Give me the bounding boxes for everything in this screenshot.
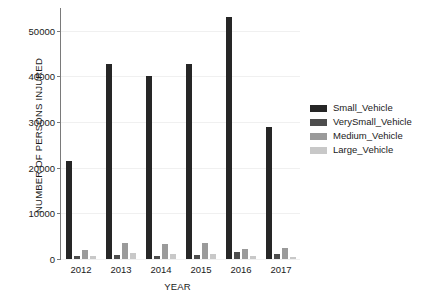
x-tick-label: 2016 — [230, 264, 251, 275]
gridline — [61, 213, 300, 214]
legend-label: Medium_Vehicle — [333, 131, 403, 141]
bar — [282, 248, 289, 259]
gridline — [61, 31, 300, 32]
bar — [146, 76, 153, 259]
bar — [82, 250, 89, 259]
bar — [154, 256, 161, 259]
y-tick-label: 50000 — [3, 25, 55, 36]
y-tick-mark — [57, 213, 60, 214]
bar — [242, 249, 249, 259]
bar-group — [106, 8, 137, 259]
y-tick-mark — [57, 122, 60, 123]
legend-label: Large_Vehicle — [333, 145, 393, 155]
bar-group — [226, 8, 257, 259]
y-tick-mark — [57, 31, 60, 32]
legend-label: VerySmall_Vehicle — [333, 117, 412, 127]
bar — [202, 243, 209, 259]
bar — [250, 256, 257, 259]
y-axis-line — [60, 8, 61, 259]
bar — [234, 252, 241, 259]
bar-group — [66, 8, 97, 259]
legend-item[interactable]: Large_Vehicle — [310, 143, 434, 157]
bar-group — [266, 8, 297, 259]
bar — [170, 254, 177, 259]
plot-area — [60, 8, 300, 259]
y-tick-mark — [57, 168, 60, 169]
x-tick-label: 2015 — [190, 264, 211, 275]
bar — [186, 64, 193, 259]
y-tick-label: 20000 — [3, 162, 55, 173]
legend-swatch-icon — [310, 105, 327, 112]
bar — [130, 253, 137, 259]
y-tick-mark — [57, 76, 60, 77]
bar — [266, 127, 273, 259]
gridline — [61, 168, 300, 169]
legend-item[interactable]: Medium_Vehicle — [310, 129, 434, 143]
y-tick-label: 10000 — [3, 208, 55, 219]
gridline — [61, 76, 300, 77]
bar — [226, 17, 233, 259]
y-tick-label: 30000 — [3, 117, 55, 128]
x-tick-label: 2017 — [270, 264, 291, 275]
bar — [90, 256, 97, 259]
y-tick-label: 0 — [3, 254, 55, 265]
bar — [66, 161, 73, 259]
bar — [114, 255, 121, 259]
gridline — [61, 122, 300, 123]
gridline — [61, 259, 300, 260]
x-axis-title: YEAR — [55, 281, 300, 292]
legend-swatch-icon — [310, 133, 327, 140]
x-tick-label: 2013 — [110, 264, 131, 275]
legend-swatch-icon — [310, 119, 327, 126]
legend: Small_VehicleVerySmall_VehicleMedium_Veh… — [310, 101, 434, 157]
x-tick-label: 2014 — [150, 264, 171, 275]
x-tick-label: 2012 — [70, 264, 91, 275]
bar — [106, 64, 113, 259]
bar — [290, 257, 297, 259]
bar — [74, 256, 81, 259]
legend-item[interactable]: VerySmall_Vehicle — [310, 115, 434, 129]
bar — [194, 255, 201, 259]
bar — [122, 243, 129, 259]
legend-swatch-icon — [310, 147, 327, 154]
legend-label: Small_Vehicle — [333, 103, 393, 113]
bar-group — [146, 8, 177, 259]
y-tick-mark — [57, 259, 60, 260]
bar-group — [186, 8, 217, 259]
bar — [210, 254, 217, 259]
legend-item[interactable]: Small_Vehicle — [310, 101, 434, 115]
bar-chart: NUMBER OF PERSONS INJURED 01000020000300… — [0, 0, 436, 301]
bar — [274, 254, 281, 259]
bar — [162, 244, 169, 259]
y-tick-label: 40000 — [3, 71, 55, 82]
